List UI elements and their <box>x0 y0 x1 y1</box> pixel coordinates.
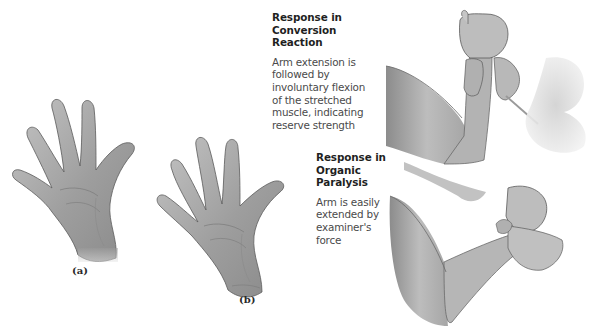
caption-body-line: muscle, indicating <box>272 106 390 119</box>
caption-organic-body: Arm is easily extended by examiner's for… <box>316 196 434 246</box>
caption-body-line: Arm is easily <box>316 196 434 209</box>
caption-body-line: force <box>316 234 434 247</box>
panel-label-b: (b) <box>239 294 255 305</box>
caption-body-line: Arm extension is <box>272 56 390 69</box>
caption-body-line: reserve strength <box>272 119 390 132</box>
panel-label-a: (a) <box>72 265 88 276</box>
caption-body-line: examiner's <box>316 221 434 234</box>
caption-title-line: Response in <box>316 151 434 164</box>
caption-organic-paralysis: Response in Organic Paralysis Arm is eas… <box>316 151 434 246</box>
figure-conversion-vs-organic-paralysis: (a) (b) Response in Conversion Reaction … <box>0 0 599 333</box>
caption-title-line: Paralysis <box>316 176 434 189</box>
hand-a-illustration <box>13 99 135 262</box>
caption-organic-title: Response in Organic Paralysis <box>316 151 434 189</box>
caption-body-line: followed by <box>272 68 390 81</box>
caption-conversion-body: Arm extension is followed by involuntary… <box>272 56 390 132</box>
caption-body-line: extended by <box>316 208 434 221</box>
hand-b-illustration <box>157 137 284 297</box>
caption-title-line: Conversion <box>272 24 390 37</box>
caption-title-line: Reaction <box>272 36 390 49</box>
caption-body-line: involuntary flexion <box>272 81 390 94</box>
caption-conversion-reaction: Response in Conversion Reaction Arm exte… <box>272 11 390 131</box>
conversion-reaction-arm-illustration <box>386 10 586 164</box>
caption-body-line: of the stretched <box>272 94 390 107</box>
caption-conversion-title: Response in Conversion Reaction <box>272 11 390 49</box>
caption-title-line: Response in <box>272 11 390 24</box>
caption-title-line: Organic <box>316 164 434 177</box>
